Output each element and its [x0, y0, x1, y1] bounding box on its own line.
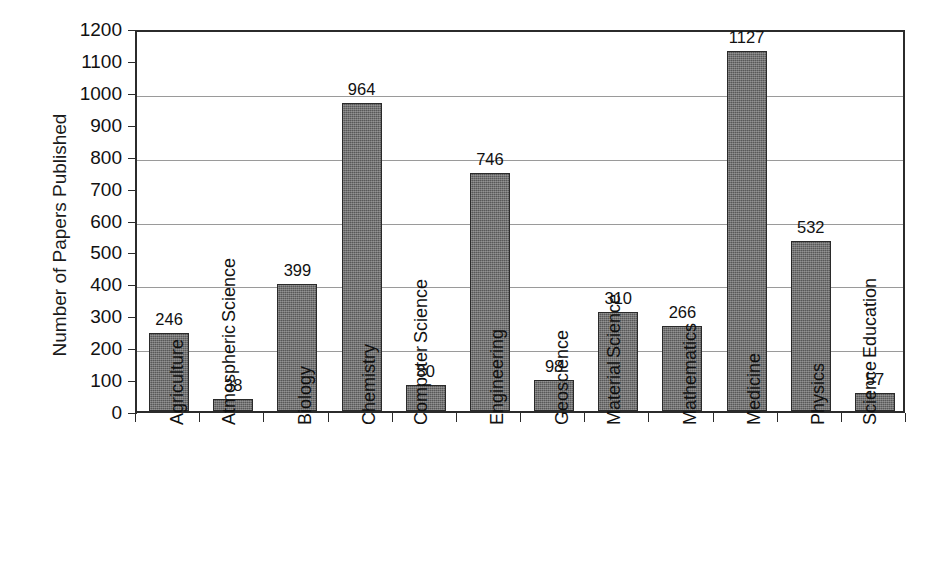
x-axis-label-line: Geoscience — [552, 330, 573, 425]
x-axis-label-line: Material — [604, 361, 625, 425]
x-axis-label-line: Science — [219, 258, 240, 322]
x-axis-label-line: Engineering — [487, 329, 508, 425]
x-axis-label-line: Agriculture — [167, 339, 188, 425]
x-axis-label-line: Education — [860, 278, 881, 358]
x-axis-label-line: Atmospheric — [219, 325, 240, 425]
x-axis-label-line: Chemistry — [359, 344, 380, 425]
x-axis-label-line: Science — [411, 279, 432, 343]
x-axis-label-line: Medicine — [744, 353, 765, 425]
x-axis-label-line: Physics — [808, 363, 829, 425]
x-axis-label-line: Biology — [295, 366, 316, 425]
x-axis-label-line: Mathematics — [680, 323, 701, 425]
chart-canvas: Number of Papers Published 1200110010009… — [0, 0, 946, 568]
x-axis-label-line: Science — [860, 361, 881, 425]
x-axis-label-line: Computer — [411, 346, 432, 425]
x-axis-category-labels: AgricultureAtmosphericScienceBiologyChem… — [0, 0, 946, 568]
x-axis-label-line: Science — [604, 294, 625, 358]
